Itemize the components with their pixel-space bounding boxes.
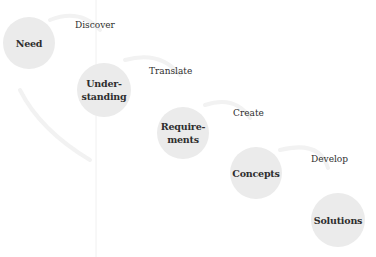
node-requirements: Require- ments <box>157 107 209 159</box>
transition-develop: Develop <box>311 154 348 164</box>
node-understanding: Under- standing <box>77 63 131 117</box>
node-requirements-label: Require- ments <box>161 120 206 146</box>
transition-create: Create <box>233 108 264 118</box>
transition-discover: Discover <box>75 20 115 30</box>
node-solutions-label: Solutions <box>314 214 363 227</box>
node-concepts-label: Concepts <box>232 167 279 180</box>
transition-translate: Translate <box>149 66 192 76</box>
node-solutions: Solutions <box>311 193 365 247</box>
node-concepts: Concepts <box>230 147 282 199</box>
node-understanding-label: Under- standing <box>81 77 126 103</box>
node-need-label: Need <box>16 37 43 50</box>
node-need: Need <box>3 17 55 69</box>
